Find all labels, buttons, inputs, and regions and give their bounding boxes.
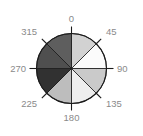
tick-label-90: 90 xyxy=(117,63,128,74)
polar-diagram-figure: 0 45 90 135 180 225 270 315 xyxy=(0,0,143,136)
tick-mark-45 xyxy=(96,39,101,44)
tick-mark-135 xyxy=(96,93,101,98)
tick-label-45: 45 xyxy=(106,26,117,37)
tick-label-135: 135 xyxy=(106,98,122,109)
polar-wedge-diagram: 0 45 90 135 180 225 270 315 xyxy=(0,0,143,136)
tick-mark-225 xyxy=(42,93,47,98)
tick-label-225: 225 xyxy=(21,98,37,109)
tick-mark-315 xyxy=(42,39,47,44)
tick-label-270: 270 xyxy=(10,63,26,74)
tick-label-315: 315 xyxy=(21,26,37,37)
tick-label-0: 0 xyxy=(69,13,74,24)
tick-label-180: 180 xyxy=(64,112,80,123)
